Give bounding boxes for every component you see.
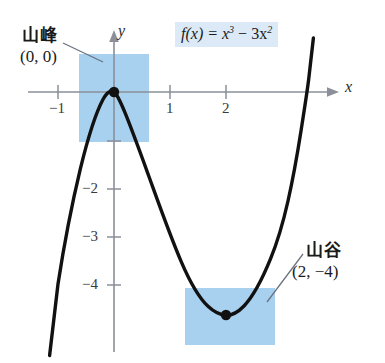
x-tick-label--1: −1 xyxy=(49,100,65,117)
valley-annotation-title: 山谷 xyxy=(306,241,341,260)
y-tick-label--2: −2 xyxy=(82,180,98,197)
peak-annotation-title: 山峰 xyxy=(22,26,57,45)
valley-point-dot xyxy=(221,310,231,320)
x-axis-name: x xyxy=(345,78,352,96)
peak-point-dot xyxy=(109,87,119,97)
x-tick-label-1: 1 xyxy=(166,100,174,117)
function-graph-figure xyxy=(0,0,385,363)
function-prefix: f(x) = x xyxy=(181,25,229,42)
function-expression-label: f(x) = x3 − 3x2 xyxy=(175,22,278,47)
peak-annotation-coord: (0, 0) xyxy=(20,47,57,66)
y-tick-label--3: −3 xyxy=(82,228,98,245)
valley-annotation-coord: (2, −4) xyxy=(292,262,338,281)
function-exponent-2: 2 xyxy=(267,24,272,35)
y-axis-name: y xyxy=(118,22,125,40)
x-tick-label-2: 2 xyxy=(222,100,230,117)
y-tick-label--4: −4 xyxy=(82,276,98,293)
function-operator: − 3x xyxy=(234,25,267,42)
